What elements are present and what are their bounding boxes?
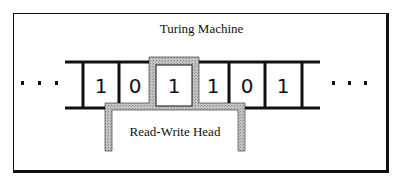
tape-cell-4: 0 <box>241 74 254 98</box>
tape-cell-3: 1 <box>207 74 220 98</box>
turing-machine-diagram: 1 0 1 1 0 1 <box>0 0 403 189</box>
tape-cell-5: 1 <box>277 74 290 98</box>
tape-ellipsis-left <box>21 81 58 85</box>
tape-cell-0: 1 <box>95 74 108 98</box>
tape-cell-2-head: 1 <box>168 74 181 98</box>
read-write-head-label: Read-Write Head <box>105 124 245 140</box>
tape-ellipsis-right <box>332 81 367 85</box>
tape-cell-1: 0 <box>129 74 142 98</box>
